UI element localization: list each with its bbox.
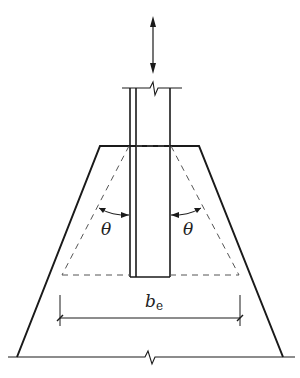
effective-width-label: be	[145, 291, 163, 313]
column-break-line	[122, 82, 182, 95]
theta-right-label: θ	[183, 219, 193, 239]
diagram-canvas: θ θ be	[0, 0, 300, 378]
load-spread-dashed	[62, 146, 239, 275]
angle-arrow-left-icon	[99, 208, 129, 218]
angle-arrow-right-icon	[171, 208, 201, 218]
column	[130, 88, 170, 277]
load-arrow-icon	[150, 16, 156, 74]
theta-left-label: θ	[101, 219, 111, 239]
footing-trapezoid	[17, 146, 283, 357]
ground-break-line	[8, 351, 295, 364]
